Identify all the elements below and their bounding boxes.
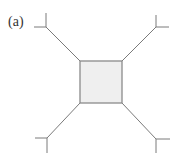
branch-top-right-diagonal bbox=[122, 27, 156, 61]
branch-bottom-right-diagonal bbox=[122, 103, 156, 139]
branch-top-left-diagonal bbox=[46, 27, 80, 61]
center-square bbox=[80, 61, 122, 103]
branch-bottom-left-diagonal bbox=[47, 103, 80, 138]
diagram-canvas bbox=[0, 0, 182, 154]
